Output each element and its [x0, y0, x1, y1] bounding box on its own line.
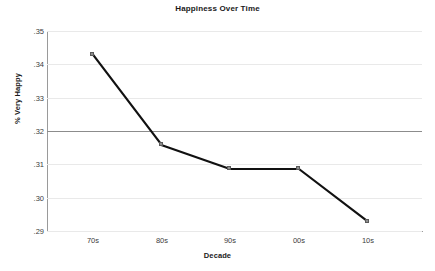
- y-tick-labels: .35 .34 .33 .32 .31 .30 .29: [20, 31, 44, 231]
- y-tick-label: .33: [22, 93, 44, 102]
- chart-title: Happiness Over Time: [0, 4, 435, 13]
- series-line: [47, 31, 422, 231]
- x-tick-label: 00s: [274, 236, 324, 245]
- y-tick-label: .34: [22, 60, 44, 69]
- x-tick-label: 10s: [343, 236, 393, 245]
- y-tick-label: .32: [22, 127, 44, 136]
- x-tick-label: 90s: [205, 236, 255, 245]
- y-tick-label: .29: [22, 227, 44, 236]
- data-point-marker: [296, 166, 300, 170]
- data-point-marker: [365, 219, 369, 223]
- gridline: [47, 231, 422, 232]
- x-tick-label: 80s: [137, 236, 187, 245]
- y-axis-title: % Very Happy: [13, 59, 22, 139]
- y-tick-label: .31: [22, 160, 44, 169]
- data-point-marker: [159, 142, 163, 146]
- data-point-marker: [90, 52, 94, 56]
- plot-area: [47, 31, 422, 231]
- x-tick-label: 70s: [68, 236, 118, 245]
- x-axis-title: Decade: [0, 251, 435, 260]
- y-tick-label: .30: [22, 193, 44, 202]
- y-tick-label: .35: [22, 27, 44, 36]
- data-point-marker: [227, 166, 231, 170]
- chart-screenshot: Happiness Over Time .35 .34 .33 .32 .31 …: [0, 0, 435, 271]
- x-tick-labels: 70s 80s 90s 00s 10s: [47, 236, 422, 248]
